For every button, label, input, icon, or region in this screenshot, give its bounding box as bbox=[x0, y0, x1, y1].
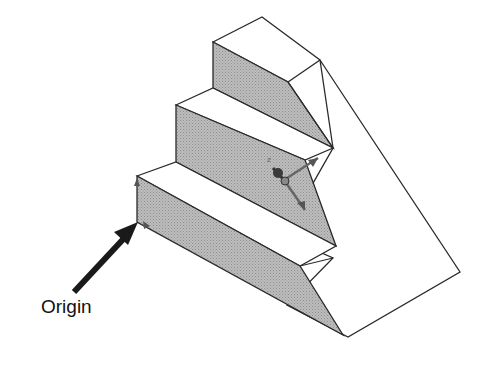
origin-label: Origin bbox=[41, 296, 92, 318]
origin-arrow-icon bbox=[74, 222, 138, 292]
triad-z-label: z bbox=[267, 155, 271, 164]
